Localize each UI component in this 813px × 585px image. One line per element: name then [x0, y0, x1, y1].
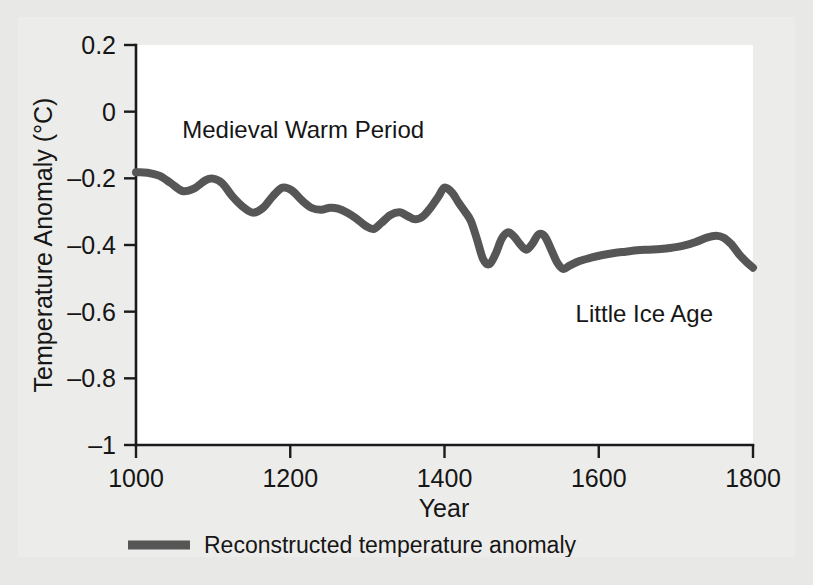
x-tick-label: 1400 [417, 464, 473, 492]
legend-label-reconstructed: Reconstructed temperature anomaly [204, 532, 577, 557]
x-axis-ticks [136, 445, 753, 458]
temperature-anomaly-chart: 0.20–0.2–0.4–0.6–0.8–1 10001200140016001… [18, 17, 795, 557]
y-tick-label: –0.4 [67, 231, 116, 259]
y-tick-label: 0.2 [81, 31, 116, 59]
annotation-medieval-warm-period: Medieval Warm Period [182, 116, 424, 143]
x-tick-label: 1600 [571, 464, 627, 492]
figure-container: 0.20–0.2–0.4–0.6–0.8–1 10001200140016001… [0, 0, 813, 585]
y-tick-label: –0.6 [67, 298, 116, 326]
y-tick-label: –0.2 [67, 164, 116, 192]
x-tick-label: 1800 [725, 464, 781, 492]
x-tick-label: 1200 [262, 464, 318, 492]
chart-panel: 0.20–0.2–0.4–0.6–0.8–1 10001200140016001… [18, 17, 795, 557]
y-axis-ticks [124, 45, 136, 445]
y-axis-tick-labels: 0.20–0.2–0.4–0.6–0.8–1 [67, 31, 116, 459]
y-axis-title: Temperature Anomaly (°C) [29, 98, 57, 393]
x-tick-label: 1000 [108, 464, 164, 492]
annotation-little-ice-age: Little Ice Age [576, 300, 713, 327]
y-tick-label: –1 [88, 431, 116, 459]
y-tick-label: 0 [102, 98, 116, 126]
y-tick-label: –0.8 [67, 364, 116, 392]
x-axis-title: Year [419, 494, 470, 522]
x-axis-tick-labels: 10001200140016001800 [108, 464, 781, 492]
